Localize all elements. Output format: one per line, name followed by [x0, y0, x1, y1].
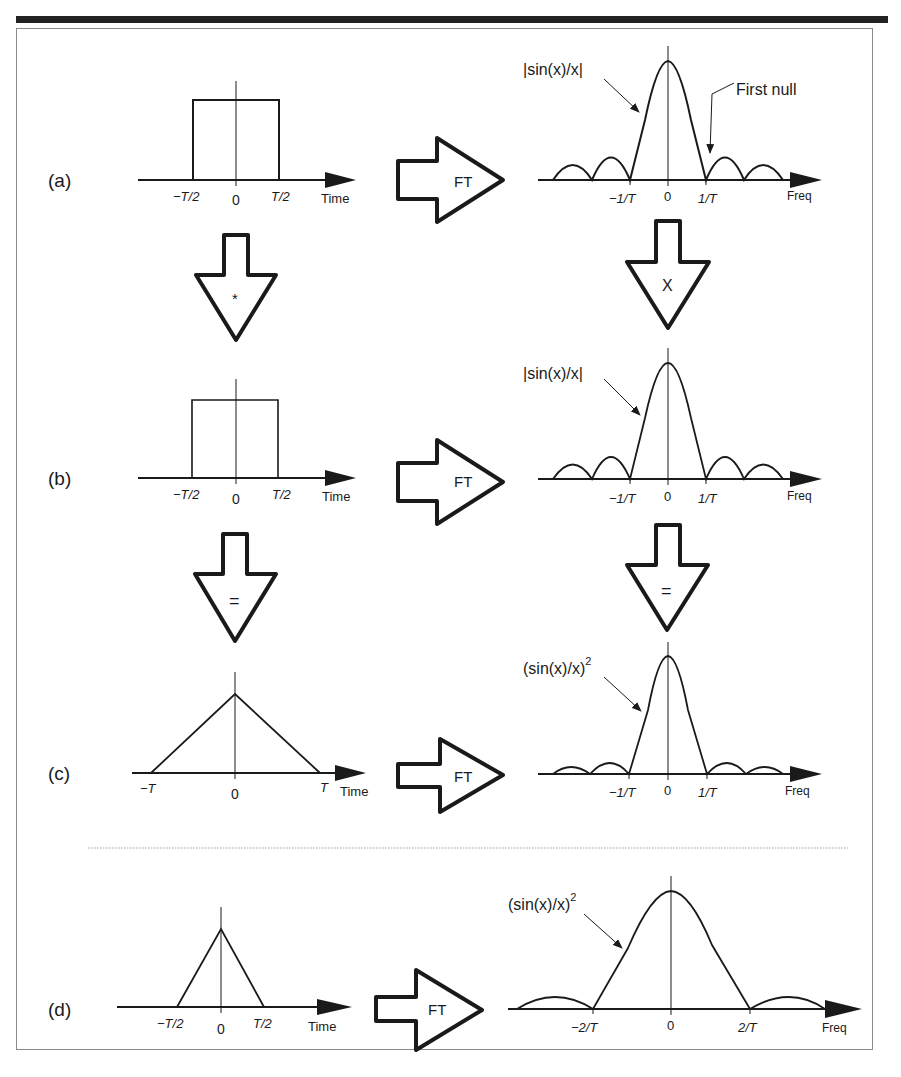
tick-neg-half-T: −T/2	[173, 190, 199, 203]
tick-zero: 0	[664, 490, 671, 503]
axis-arrowhead-icon	[790, 766, 822, 782]
tick-half-T: T/2	[271, 190, 290, 203]
down-arrow-multiply-icon	[627, 221, 709, 328]
tick-zero: 0	[664, 190, 671, 203]
tick-1-over-T: 1/T	[698, 192, 717, 205]
row-label-c: (c)	[48, 764, 70, 783]
right-arrow-icon	[398, 138, 503, 222]
row-b-time-plot	[138, 379, 356, 486]
curve-label-sinc-abs: |sin(x)/x|	[523, 366, 583, 382]
tick-T: T	[320, 781, 328, 794]
figure-canvas	[0, 0, 901, 1077]
tick-1-over-T: 1/T	[698, 786, 717, 799]
first-null-annotation: First null	[736, 82, 796, 98]
curve-label-text: (sin(x)/x)	[508, 896, 570, 913]
axis-label-freq: Freq	[787, 190, 812, 202]
tick-half-T: T/2	[272, 488, 291, 501]
ft-arrow-label: FT	[454, 474, 472, 489]
row-label-d: (d)	[48, 1000, 71, 1019]
tick-neg-half-T: −T/2	[157, 1017, 183, 1030]
tick-zero: 0	[217, 1022, 225, 1036]
row-c-time-plot	[132, 672, 366, 781]
tick-neg-1-over-T: −1/T	[609, 786, 635, 799]
row-label-a: (a)	[48, 171, 71, 190]
tick-neg-T: −T	[140, 782, 156, 795]
curve-label-text: (sin(x)/x)	[523, 660, 585, 677]
axis-label-time: Time	[322, 490, 350, 503]
multiply-symbol: X	[662, 278, 673, 294]
tick-neg-1-over-T: −1/T	[609, 492, 635, 505]
ft-arrow-label: FT	[428, 1002, 446, 1017]
axis-arrowhead-icon	[335, 765, 366, 781]
curve-label-sinc-abs: |sin(x)/x|	[523, 62, 583, 78]
row-b-ft-arrow	[398, 440, 503, 524]
tick-zero: 0	[667, 1019, 674, 1032]
axis-label-time: Time	[340, 785, 368, 798]
axis-arrowhead-icon	[825, 1000, 862, 1018]
curve-label-sinc-squared: (sin(x)/x)2	[508, 897, 576, 913]
tick-neg-2-over-T: −2/T	[571, 1021, 597, 1034]
tick-zero: 0	[231, 787, 239, 801]
axis-arrowhead-icon	[790, 172, 822, 188]
equals-symbol: =	[229, 592, 240, 610]
row-a-ft-arrow	[398, 138, 503, 222]
axis-arrowhead-icon	[317, 999, 352, 1015]
down-arrow-convolve-icon	[196, 235, 276, 340]
down-arrow-equals-icon	[627, 525, 708, 630]
tick-zero: 0	[232, 492, 240, 506]
convolve-symbol: *	[232, 291, 238, 306]
row-a-time-plot	[138, 81, 356, 188]
equals-symbol: =	[661, 582, 672, 600]
curve-label-sinc-squared: (sin(x)/x)2	[523, 661, 591, 677]
ft-arrow-label: FT	[454, 174, 472, 189]
tick-2-over-T: 2/T	[738, 1021, 757, 1034]
right-arrow-icon	[398, 440, 503, 524]
axis-label-freq: Freq	[822, 1022, 847, 1034]
axis-arrowhead-icon	[790, 471, 822, 487]
right-arrow-icon	[398, 739, 503, 812]
curve-label-exponent: 2	[585, 655, 591, 667]
top-rule	[16, 16, 888, 23]
row-d-time-plot	[117, 907, 352, 1015]
tick-1-over-T: 1/T	[698, 492, 717, 505]
tick-neg-half-T: −T/2	[173, 488, 199, 501]
axis-label-freq: Freq	[787, 490, 812, 502]
tick-zero: 0	[664, 784, 671, 797]
tick-neg-1-over-T: −1/T	[609, 192, 635, 205]
ft-arrow-label: FT	[454, 769, 472, 784]
down-arrow-equals-icon	[195, 534, 276, 641]
axis-label-freq: Freq	[785, 785, 810, 797]
tick-zero: 0	[232, 193, 240, 207]
axis-arrowhead-icon	[325, 470, 356, 486]
axis-arrowhead-icon	[325, 172, 356, 188]
row-label-b: (b)	[48, 469, 71, 488]
axis-label-time: Time	[321, 192, 349, 205]
axis-label-time: Time	[308, 1020, 336, 1033]
row-c-ft-arrow	[398, 739, 503, 812]
tick-half-T: T/2	[253, 1017, 272, 1030]
curve-label-exponent: 2	[570, 891, 576, 903]
